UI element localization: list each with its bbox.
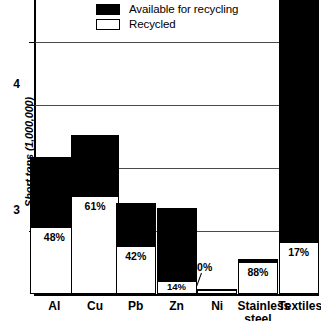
bar-stainless-steel: 88%	[238, 259, 278, 294]
recycled-segment-stainless-steel: 88%	[239, 262, 277, 294]
recycled-segment-textiles: 17%	[280, 242, 318, 293]
y-tick-3: 3	[29, 105, 35, 106]
x-axis-label-cu: Cu	[75, 300, 116, 313]
bar-textiles: 17%	[279, 0, 319, 294]
callout-leader-line-ni	[196, 273, 202, 286]
x-axis-label-pb: Pb	[115, 300, 156, 313]
x-axis-label-stainless-steel: Stainless steel	[238, 300, 279, 321]
pct-label-textiles: 17%	[280, 246, 318, 258]
recycling-bar-chart: Short tons (1,000,000) Available for rec…	[0, 0, 321, 321]
bar-cu: 61%	[71, 135, 119, 294]
pct-label-pb: 42%	[117, 250, 155, 262]
bar-pb: 42%	[116, 203, 156, 294]
y-tick-label-4: 4	[13, 77, 20, 91]
pct-label-stainless-steel: 88%	[239, 266, 277, 278]
x-axis-label-zn: Zn	[156, 300, 197, 313]
recycled-segment-pb: 42%	[117, 246, 155, 293]
bar-ni	[197, 289, 237, 294]
bar-zn: 14%	[157, 208, 197, 294]
recycled-segment-ni	[198, 290, 236, 293]
x-axis-label-textiles: Textiles	[278, 300, 319, 313]
pct-callout-ni: 40%	[191, 261, 212, 273]
x-axis-label-ni: Ni	[197, 300, 238, 313]
pct-label-zn: 14%	[158, 281, 196, 292]
gridline-4	[34, 42, 319, 43]
pct-label-cu: 61%	[72, 200, 118, 212]
x-axis-label-al: Al	[34, 300, 75, 313]
gridline-3	[34, 105, 319, 106]
x-axis-line	[34, 294, 319, 296]
plot-area: 1234 48%61%42%14%40%88%17% AlCuPbZnNiSta…	[34, 0, 319, 296]
y-tick-4: 4	[29, 42, 35, 43]
recycled-segment-cu: 61%	[72, 196, 118, 293]
recycled-segment-zn: 14%	[158, 281, 196, 293]
y-tick-label-3: 3	[13, 203, 20, 217]
